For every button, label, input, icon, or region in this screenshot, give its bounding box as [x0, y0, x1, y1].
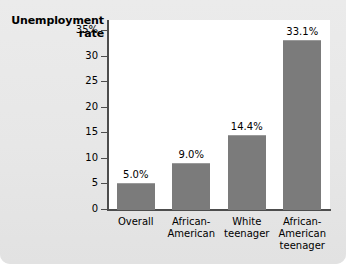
y-axis-tick-label: 35% [52, 25, 98, 35]
y-axis-tick-mark [101, 30, 107, 31]
x-axis-category-label-line: teenager [215, 228, 279, 240]
y-axis-tick-label: 20 [52, 102, 98, 112]
x-axis-category-label: African-Americanteenager [270, 216, 334, 252]
y-axis-tick-mark [101, 81, 107, 82]
y-axis-tick-label: 5 [52, 178, 98, 188]
y-axis-tick-mark [101, 158, 107, 159]
y-axis-tick-label: 30 [52, 51, 98, 61]
x-axis-category-label: Overall [104, 216, 168, 228]
y-axis-tick-label: 10 [52, 153, 98, 163]
x-axis-category-label-line: African- [270, 216, 334, 228]
x-axis-category-label-line: African- [159, 216, 223, 228]
y-axis-tick-mark [101, 183, 107, 184]
x-axis-category-label-line: White [215, 216, 279, 228]
bar [117, 183, 155, 210]
y-axis-tick-mark [101, 107, 107, 108]
bar-value-label: 14.4% [217, 121, 277, 132]
x-axis-category-label: Whiteteenager [215, 216, 279, 240]
x-axis-category-label-line: teenager [270, 240, 334, 252]
chart-figure: Unemployment rate 05101520253035% 5.0%9.… [0, 0, 352, 275]
y-axis-tick-mark [101, 209, 107, 210]
x-axis-category-label: African-American [159, 216, 223, 240]
bar [228, 135, 266, 210]
bar [283, 40, 321, 210]
x-axis-category-label-line: Overall [104, 216, 168, 228]
bar-value-label: 33.1% [272, 26, 332, 37]
y-axis-tick-label: 0 [52, 204, 98, 214]
y-axis-tick-mark [101, 132, 107, 133]
y-axis-line [107, 20, 109, 211]
y-axis-tick-labels: 05101520253035% [52, 0, 98, 275]
y-axis-tick-label: 25 [52, 76, 98, 86]
bar-value-label: 9.0% [161, 149, 221, 160]
x-axis-category-label-line: American [159, 228, 223, 240]
y-axis-tick-label: 15 [52, 127, 98, 137]
bar-value-label: 5.0% [106, 169, 166, 180]
x-axis-category-label-line: American [270, 228, 334, 240]
bar [172, 163, 210, 210]
y-axis-tick-mark [101, 56, 107, 57]
